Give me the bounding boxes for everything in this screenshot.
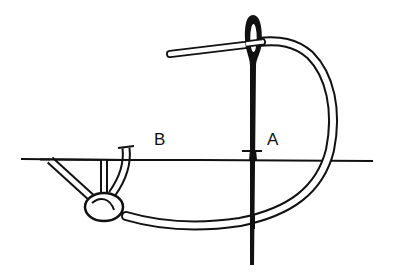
stitch-diagram: B A: [0, 0, 398, 276]
diagram-svg: [0, 0, 398, 276]
point-b-label: B: [154, 131, 165, 148]
french-knot: [85, 193, 123, 221]
point-a-label: A: [267, 131, 278, 148]
